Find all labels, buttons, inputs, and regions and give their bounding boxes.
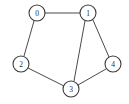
graph-node-label-2: 2 — [19, 60, 23, 69]
graph-edge-2-3 — [28, 68, 64, 86]
graph-edge-3-4 — [78, 69, 106, 85]
edges-layer — [24, 13, 109, 86]
graph-node-label-3: 3 — [69, 85, 73, 94]
graph-node-4[interactable]: 4 — [105, 56, 121, 72]
graph-node-3[interactable]: 3 — [63, 81, 79, 97]
graph-diagram: 01234 — [0, 0, 129, 104]
nodes-layer: 01234 — [13, 5, 121, 97]
graph-edge-0-2 — [24, 21, 34, 56]
graph-node-label-4: 4 — [111, 60, 115, 69]
graph-node-0[interactable]: 0 — [29, 5, 45, 21]
graph-node-2[interactable]: 2 — [13, 56, 29, 72]
graph-node-label-1: 1 — [86, 9, 90, 18]
graph-node-1[interactable]: 1 — [80, 5, 96, 21]
graph-node-label-0: 0 — [35, 9, 39, 18]
graph-edge-1-4 — [93, 20, 109, 57]
graph-edge-1-3 — [74, 21, 85, 81]
graph-canvas: 01234 — [0, 0, 129, 104]
